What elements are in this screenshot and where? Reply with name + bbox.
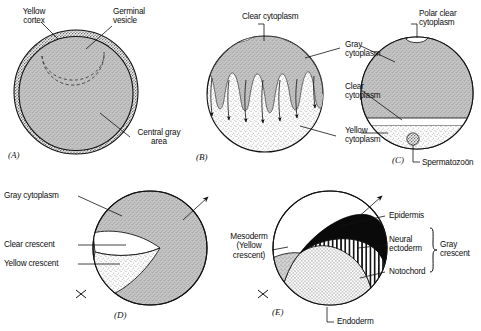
label-yellow-cortex: Yellow cortex	[6, 7, 62, 26]
leader-gray-cytoplasm-b	[305, 48, 340, 58]
figure-canvas: Yellow cortex Germinal vesicle Central g…	[0, 0, 481, 331]
label-notochord: Notochord	[389, 267, 445, 276]
panel-a-drawing	[14, 22, 138, 154]
panel-label-e: (E)	[272, 307, 284, 317]
label-gray-cytoplasm-b: Gray cytoplasm	[345, 40, 409, 59]
label-polar-clear-cytoplasm: Polar clear cytoplasm	[419, 9, 481, 28]
label-mesoderm: Mesoderm (Yellow crescent)	[210, 232, 288, 260]
sperm-entry-mark-d	[76, 290, 86, 298]
label-gray-cytoplasm-d: Gray cytoplasm	[4, 191, 78, 200]
label-yellow-cytoplasm-b: Yellow cytoplasm	[345, 126, 411, 145]
label-epidermis: Epidermis	[389, 211, 447, 220]
label-clear-cytoplasm-b: Clear cytoplasm	[345, 82, 409, 101]
panel-label-b: (B)	[196, 152, 208, 162]
sperm-entry-mark-e	[258, 290, 268, 298]
central-gray-area	[19, 37, 133, 151]
panel-d-drawing	[76, 191, 208, 305]
panel-label-d: (D)	[114, 310, 127, 320]
panel-label-a: (A)	[8, 150, 20, 160]
label-neural-ectoderm: Neural ectoderm	[389, 235, 433, 254]
label-germinal-vesicle: Germinal vesicle	[113, 7, 183, 26]
label-central-gray-area: Central gray area	[127, 128, 191, 147]
panel-label-c: (C)	[392, 155, 404, 165]
panel-b-drawing	[200, 18, 340, 152]
label-yellow-crescent: Yellow crescent	[4, 259, 82, 268]
mesoderm-edge-e	[254, 268, 273, 312]
label-clear-cytoplasm-top: Clear cytoplasm	[242, 12, 338, 21]
label-endoderm: Endoderm	[337, 317, 393, 326]
clear-cytoplasm-band-c	[358, 118, 478, 126]
label-clear-crescent: Clear crescent	[4, 240, 78, 249]
label-gray-crescent: Gray crescent	[440, 240, 480, 259]
label-spermatozoon: Spermatozoön	[422, 158, 481, 167]
